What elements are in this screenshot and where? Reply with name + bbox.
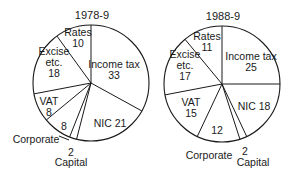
slice-label: 12 bbox=[211, 124, 223, 136]
slice-label: NIC 18 bbox=[238, 100, 271, 112]
slice-label: NIC 21 bbox=[94, 117, 127, 129]
slice-label: Capital bbox=[237, 156, 270, 168]
slice-label: Capital bbox=[55, 156, 88, 168]
chart-title: 1988-9 bbox=[206, 10, 240, 22]
slice-label: Corporate bbox=[13, 133, 60, 145]
slice-label: Corporate bbox=[186, 149, 233, 161]
pie-1978-9: 1978-9Income tax33NIC 212Capital8VAT8Exc… bbox=[13, 9, 149, 168]
slice-label: 8 bbox=[61, 120, 67, 132]
pie-1988-9: 1988-9Income tax25NIC 182Capital12VAT15E… bbox=[164, 10, 280, 168]
chart-canvas: 1978-9Income tax33NIC 212Capital8VAT8Exc… bbox=[0, 0, 294, 175]
pie-chart-comparison: 1978-9Income tax33NIC 212Capital8VAT8Exc… bbox=[0, 0, 294, 175]
chart-title: 1978-9 bbox=[75, 9, 109, 21]
